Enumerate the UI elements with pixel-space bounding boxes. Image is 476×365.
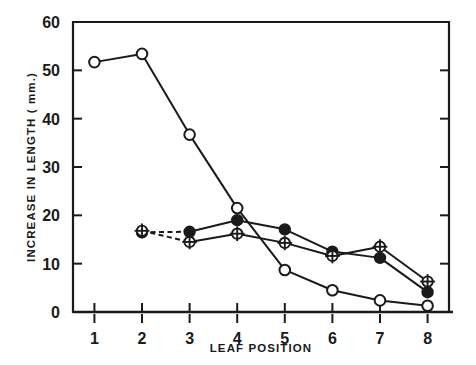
x-tick-label: 3 (185, 330, 194, 347)
data-point-filled-circle (232, 215, 243, 226)
line-chart: 12345678 0102030405060 LEAF POSITION INC… (0, 0, 476, 365)
open-circle-marker (137, 49, 148, 60)
data-point-filled-circle (279, 224, 290, 235)
open-circle-marker (184, 129, 195, 140)
data-point-open-circle (422, 300, 433, 311)
y-tick-label: 60 (42, 14, 60, 31)
y-tick-label: 50 (42, 62, 60, 79)
chart-figure: 12345678 0102030405060 LEAF POSITION INC… (0, 0, 476, 365)
open-circle-marker (89, 57, 100, 68)
data-point-open-circle (89, 57, 100, 68)
data-point-open-circle (137, 49, 148, 60)
y-tick-label: 40 (42, 111, 60, 128)
x-axis-label: LEAF POSITION (210, 342, 312, 354)
filled-circle-marker (279, 224, 290, 235)
x-tick-label: 2 (138, 330, 147, 347)
open-circle-marker (375, 295, 386, 306)
open-circle-marker (327, 285, 338, 296)
y-tick-label: 20 (42, 207, 60, 224)
data-point-open-circle (375, 295, 386, 306)
data-point-open-circle (327, 285, 338, 296)
open-circle-marker (232, 203, 243, 214)
open-circle-marker (279, 265, 290, 276)
x-tick-label: 7 (376, 330, 385, 347)
data-point-open-circle (184, 129, 195, 140)
data-point-open-circle (279, 265, 290, 276)
x-tick-label: 8 (423, 330, 432, 347)
x-tick-label: 1 (90, 330, 99, 347)
filled-circle-marker (232, 215, 243, 226)
y-tick-label: 10 (42, 256, 60, 273)
data-point-open-circle (232, 203, 243, 214)
y-axis-label: INCREASE IN LENGTH ( mm.) (25, 72, 37, 262)
y-tick-label: 30 (42, 159, 60, 176)
x-tick-label: 6 (328, 330, 337, 347)
open-circle-marker (422, 300, 433, 311)
y-tick-label: 0 (51, 304, 60, 321)
